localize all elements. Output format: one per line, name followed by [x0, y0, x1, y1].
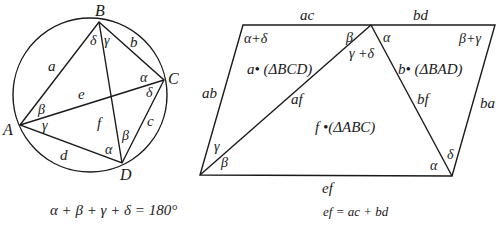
angle-apex-middle: γ +δ: [349, 46, 374, 61]
angle-apex-right: α: [383, 30, 391, 45]
cyclic-quadrilateral-figure: B C D A a b c d e f δ γ α δ α β β γ α + …: [2, 2, 179, 218]
angle-apex-left: β: [345, 30, 353, 45]
angle-bottom-right-left: α: [430, 158, 438, 173]
angle-a-bottom: γ: [42, 118, 48, 133]
ptolemy-parallelogram-figure: ac bd ab ba ef af bf α+δ β γ +δ α β+γ γ …: [200, 7, 495, 219]
left-caption: α + β + γ + δ = 180°: [50, 202, 177, 218]
edge-label-ba: ba: [480, 95, 495, 111]
edge-label-bd: bd: [413, 7, 429, 23]
edge-label-ef: ef: [322, 180, 335, 196]
side-label-b: b: [130, 34, 138, 50]
vertex-label-d: D: [119, 166, 132, 183]
edge-bf: [371, 25, 452, 176]
angle-c-bottom: δ: [146, 85, 153, 100]
vertex-label-a: A: [2, 121, 13, 138]
diagonal-label-f: f: [97, 115, 103, 131]
angle-d-left: α: [105, 142, 113, 157]
side-label-c: c: [147, 113, 154, 129]
edge-af: [200, 25, 371, 175]
angle-b-right: γ: [104, 33, 110, 48]
angle-d-right: β: [121, 128, 129, 143]
right-caption: ef = ac + bd: [323, 204, 389, 219]
region-label-left-triangle: a• (ΔBCD): [247, 61, 312, 78]
angle-bottom-right-right: δ: [447, 147, 454, 162]
angle-a-top: β: [37, 102, 45, 117]
diagonal-label-e: e: [78, 86, 85, 102]
edge-label-ac: ac: [300, 7, 315, 23]
angle-b-left: δ: [90, 33, 97, 48]
angle-top-left-corner: α+δ: [244, 31, 268, 46]
edge-label-af: af: [291, 91, 305, 107]
vertex-label-c: C: [168, 70, 179, 87]
vertex-label-b: B: [95, 2, 105, 19]
region-label-middle-triangle: f •(ΔABC): [315, 119, 375, 136]
angle-bottom-left-lower: β: [220, 155, 228, 170]
angle-top-right-corner: β+γ: [458, 31, 481, 46]
side-label-a: a: [48, 58, 56, 74]
angle-bottom-left-upper: γ: [214, 139, 220, 154]
edge-label-ab: ab: [202, 85, 218, 101]
angle-c-top: α: [140, 70, 148, 85]
edge-label-bf: bf: [417, 91, 431, 107]
diagram-canvas: B C D A a b c d e f δ γ α δ α β β γ α + …: [0, 0, 501, 227]
side-label-d: d: [60, 147, 68, 163]
region-label-right-triangle: b• (ΔBAD): [398, 61, 462, 78]
